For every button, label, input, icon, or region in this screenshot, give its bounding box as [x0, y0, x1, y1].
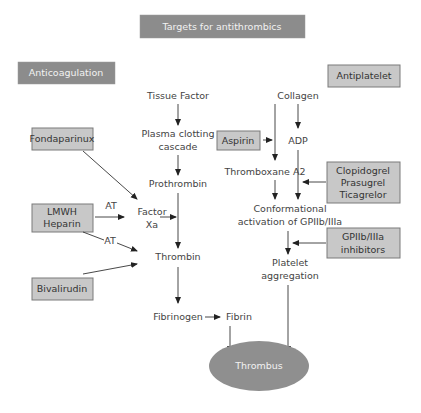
- edge-label-at-1: AT: [105, 200, 117, 211]
- node-collagen: Collagen: [277, 90, 318, 101]
- lmwh-label: LMWH: [47, 206, 77, 217]
- drug-box-p2y12-inhibitors: Clopidogrel Prasugrel Ticagrelor: [327, 162, 400, 203]
- drug-box-aspirin: Aspirin: [217, 131, 260, 150]
- anticoagulation-header: Anticoagulation: [18, 62, 115, 84]
- node-platelet-aggregation-line1: Platelet: [272, 257, 308, 268]
- bivalirudin-label: Bivalirudin: [37, 283, 88, 294]
- node-thrombin: Thrombin: [154, 251, 200, 262]
- drug-box-fondaparinux: Fondaparinux: [30, 128, 95, 150]
- node-conformational-line1: Conformational: [253, 203, 326, 214]
- inhibitors-label: inhibitors: [341, 244, 385, 255]
- node-factor-xa-line2: Xa: [146, 219, 158, 230]
- node-conformational-line2: activation of GPIIb/IIIa: [238, 216, 342, 227]
- antithrombic-targets-diagram: Targets for antithrombics Anticoagulatio…: [0, 0, 421, 413]
- node-plasma-cascade-line1: Plasma clotting: [141, 128, 214, 139]
- arrow-fondaparinux-to-factorxa: [83, 151, 137, 199]
- anticoagulation-label: Anticoagulation: [29, 67, 103, 78]
- antiplatelet-header: Antiplatelet: [328, 65, 400, 87]
- drug-box-gpiib-iiia-inhibitors: GPIIb/IIIa inhibitors: [327, 228, 400, 258]
- aspirin-label: Aspirin: [222, 135, 255, 146]
- node-thromboxane-a2: Thromboxane A2: [223, 166, 305, 177]
- edge-label-at-2: AT: [104, 235, 116, 246]
- node-tissue-factor: Tissue Factor: [146, 90, 209, 101]
- thrombus-node: Thrombus: [209, 341, 309, 391]
- gpiib-iiia-label: GPIIb/IIIa: [342, 231, 384, 242]
- clopidogrel-label: Clopidogrel: [336, 165, 390, 176]
- antiplatelet-label: Antiplatelet: [336, 70, 391, 81]
- ticagrelor-label: Ticagrelor: [338, 189, 386, 200]
- prasugrel-label: Prasugrel: [341, 177, 385, 188]
- title-text: Targets for antithrombics: [161, 21, 281, 32]
- node-fibrin: Fibrin: [226, 311, 252, 322]
- node-plasma-cascade-line2: cascade: [159, 141, 198, 152]
- node-adp: ADP: [288, 135, 308, 146]
- heparin-label: Heparin: [43, 218, 80, 229]
- thrombus-label: Thrombus: [234, 360, 283, 371]
- drug-box-lmwh-heparin: LMWH Heparin: [32, 204, 93, 232]
- node-fibrinogen: Fibrinogen: [153, 311, 203, 322]
- fondaparinux-label: Fondaparinux: [30, 133, 95, 144]
- arrow-bivalirudin-to-thrombin: [83, 264, 137, 274]
- node-prothrombin: Prothrombin: [149, 178, 207, 189]
- node-platelet-aggregation-line2: aggregation: [261, 270, 318, 281]
- node-factor-xa-line1: Factor: [137, 206, 166, 217]
- title-box: Targets for antithrombics: [140, 15, 305, 38]
- drug-box-bivalirudin: Bivalirudin: [32, 278, 93, 300]
